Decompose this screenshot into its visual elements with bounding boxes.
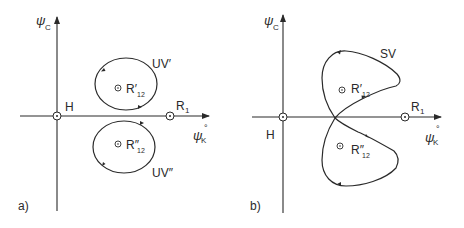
r12-prime-label-b: R′ [351, 82, 363, 96]
y-axis-sub-b: C [273, 23, 279, 32]
curve-sv [322, 51, 400, 186]
origin-label-b: H [266, 128, 275, 142]
r1-sub-a: 1 [185, 106, 190, 115]
r1-label-a: R [176, 99, 185, 113]
y-axis-sub-a: C [45, 23, 51, 32]
phase-diagram: ψ C ψ K ° H R 1 R′ 12 UV′ R″ 12 UV″ a) [0, 0, 464, 228]
x-axis-sub-a: K [201, 136, 207, 145]
r12-prime-label-a: R′ [126, 82, 138, 96]
uv-prime-label: UV′ [152, 57, 172, 71]
r1-label-b: R [411, 100, 420, 114]
x-axis-sub-b: K [433, 138, 439, 147]
origin-label-a: H [65, 100, 74, 114]
r12-prime-sub-b: 12 [362, 91, 370, 98]
r12-double-prime-sub-a: 12 [137, 147, 145, 154]
uv-double-prime-label: UV″ [152, 166, 174, 180]
r12-double-prime-sub-b: 12 [362, 152, 370, 159]
panel-label-a: a) [18, 199, 29, 213]
panel-b: ψ C ψ K ° H R 1 R′ 12 R″ 12 SV b) [250, 13, 441, 213]
sv-label: SV [380, 47, 396, 61]
x-axis-sup-a: ° [204, 123, 208, 133]
x-axis-sup-b: ° [436, 124, 440, 134]
r1-sub-b: 1 [420, 107, 425, 116]
panel-label-b: b) [250, 199, 261, 213]
r12-prime-sub-a: 12 [137, 91, 145, 98]
panel-a: ψ C ψ K ° H R 1 R′ 12 UV′ R″ 12 UV″ a) [18, 13, 209, 213]
